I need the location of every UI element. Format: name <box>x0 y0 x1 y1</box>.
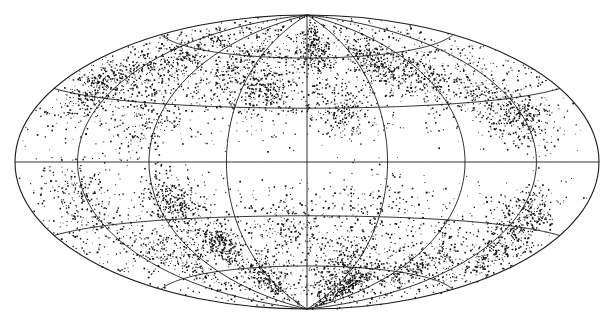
sky-map <box>0 0 613 323</box>
